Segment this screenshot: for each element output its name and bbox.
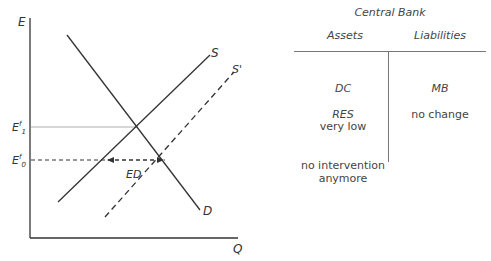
liabilities-header: Liabilities	[394, 29, 486, 42]
balance-sheet-title: Central Bank	[340, 6, 440, 19]
e0-label: Ef0	[12, 153, 26, 169]
excess-demand-label: ED	[126, 168, 141, 181]
demand-curve	[67, 35, 200, 210]
assets-header: Assets	[300, 29, 390, 42]
supply-label: S	[211, 46, 219, 60]
e1-label: Ef1	[12, 120, 26, 136]
t-account-vertical-rule	[388, 52, 389, 162]
foreign-exchange-market-graph: E Q Ef1 Ef0 D S S' ED	[0, 0, 260, 261]
liability-mb-note: no change	[394, 108, 486, 122]
asset-res-note: very low	[300, 120, 386, 134]
liability-mb: MB	[394, 82, 486, 96]
y-axis-label: E	[18, 15, 26, 29]
asset-note-line2: anymore	[296, 172, 390, 186]
asset-note-line1: no intervention	[296, 159, 390, 173]
demand-label: D	[203, 204, 212, 218]
shifted-supply-label: S'	[232, 63, 242, 76]
x-axis-label: Q	[233, 242, 242, 256]
asset-dc: DC	[300, 82, 386, 96]
t-account-horizontal-rule	[294, 51, 486, 52]
